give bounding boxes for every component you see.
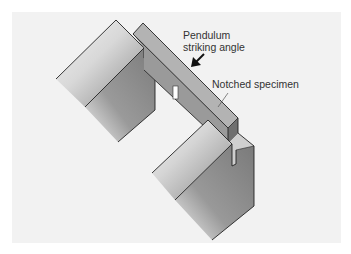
pendulum-strike-arrow-icon [191,54,204,67]
notched-specimen-label: Notched specimen [212,78,299,90]
specimen-notch [173,86,178,99]
pendulum-label-line1: Pendulum [183,29,245,41]
impact-test-diagram [0,0,351,254]
pendulum-label-line2: striking angle [183,41,245,53]
right-anvil [152,120,254,240]
pendulum-striking-angle-label: Pendulum striking angle [183,29,245,53]
